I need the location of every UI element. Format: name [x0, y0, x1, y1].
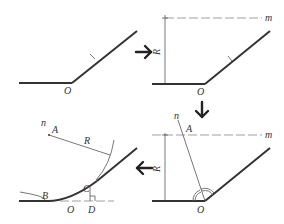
label-vertex-o: O	[197, 204, 204, 215]
label-a: A	[185, 123, 193, 134]
tick-mark	[90, 54, 95, 59]
step-3-panel: m R n A O	[151, 110, 272, 215]
label-b: B	[42, 190, 48, 201]
label-vertex-o: O	[67, 204, 74, 215]
label-r: R	[83, 135, 90, 146]
angle-arc	[202, 191, 213, 195]
tick-mark	[228, 56, 232, 61]
step-4-panel: n A R B C O D	[19, 117, 137, 215]
label-m: m	[265, 129, 272, 140]
inclined-line	[205, 148, 270, 201]
radius-line	[49, 135, 110, 155]
label-r: R	[151, 166, 162, 173]
inclined-line	[72, 31, 137, 83]
arrow-down-icon	[196, 102, 208, 117]
step-1-panel: O	[19, 31, 137, 96]
label-r: R	[151, 49, 162, 56]
label-vertex-o: O	[64, 85, 71, 96]
label-m: m	[265, 12, 272, 23]
label-c: C	[83, 183, 90, 194]
label-n: n	[41, 117, 46, 128]
inclined-line	[205, 31, 270, 84]
right-angle-mark	[90, 196, 95, 201]
arrow-right-icon	[136, 46, 151, 58]
label-d: D	[87, 204, 96, 215]
arrow-left-icon	[137, 162, 152, 174]
label-a: A	[51, 124, 59, 135]
label-vertex-o: O	[197, 86, 204, 97]
diagram-canvas: O m R O m R n A O	[0, 0, 284, 224]
step-2-panel: m R O	[151, 12, 272, 97]
label-n: n	[174, 110, 179, 121]
